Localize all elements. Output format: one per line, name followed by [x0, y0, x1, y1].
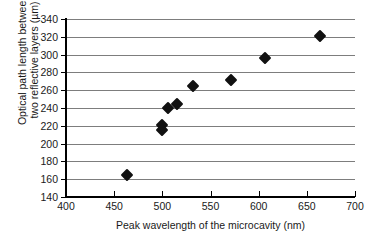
- y-axis-title: Optical path length between two reflecti…: [16, 0, 40, 150]
- x-tick-label-700: 700: [335, 200, 375, 212]
- x-tick-mark-700: [355, 191, 356, 197]
- data-point: [187, 79, 200, 92]
- y-axis-title-line2: two reflective layers (µm): [28, 0, 40, 150]
- x-tick-label-550: 550: [191, 200, 231, 212]
- data-point: [259, 52, 272, 65]
- scatter-chart: 140160180200220240260280300320340 400450…: [0, 0, 388, 241]
- y-tick-label-180: 180: [2, 156, 58, 166]
- x-tick-label-500: 500: [142, 200, 182, 212]
- x-tick-label-600: 600: [239, 200, 279, 212]
- data-point: [224, 74, 237, 87]
- y-axis-title-line1: Optical path length between: [16, 0, 28, 150]
- x-tick-label-650: 650: [287, 200, 327, 212]
- x-axis-title: Peak wavelength of the microcavity (nm): [66, 219, 355, 231]
- data-point: [314, 30, 327, 43]
- data-point: [120, 168, 133, 181]
- y-tick-label-160: 160: [2, 174, 58, 184]
- x-tick-label-450: 450: [94, 200, 134, 212]
- data-points: [66, 19, 355, 197]
- x-tick-label-400: 400: [46, 200, 86, 212]
